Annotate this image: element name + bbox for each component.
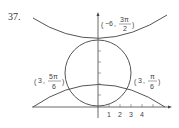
svg-text:): ) bbox=[158, 78, 160, 86]
svg-text:6: 6 bbox=[52, 83, 56, 90]
svg-text:(: ( bbox=[134, 78, 137, 86]
svg-text:(: ( bbox=[34, 78, 37, 86]
svg-text:5π: 5π bbox=[49, 73, 58, 80]
svg-text:3: 3 bbox=[38, 77, 42, 84]
x-tick-3: 3 bbox=[129, 111, 133, 118]
polar-graph: 37. 1 2 3 4 ( −6 , 3π 2 ) ( 3 , bbox=[0, 0, 179, 128]
upper-curve bbox=[33, 15, 167, 38]
svg-text:3: 3 bbox=[138, 77, 142, 84]
svg-text:,: , bbox=[143, 77, 145, 84]
problem-number: 37. bbox=[8, 11, 21, 22]
x-tick-4: 4 bbox=[140, 111, 144, 118]
x-tick-1: 1 bbox=[107, 111, 111, 118]
svg-text:): ) bbox=[132, 21, 134, 29]
svg-text:(: ( bbox=[101, 21, 104, 29]
x-tick-2: 2 bbox=[118, 111, 122, 118]
vertical-ticks bbox=[98, 51, 101, 95]
label-left-point: ( 3 , 5π 6 ) bbox=[34, 73, 64, 90]
svg-text:6: 6 bbox=[150, 83, 154, 90]
svg-text:−6: −6 bbox=[105, 20, 113, 27]
vertical-axis-arrow bbox=[97, 12, 100, 16]
svg-text:): ) bbox=[62, 78, 64, 86]
horizontal-axis-arrow bbox=[168, 106, 172, 109]
svg-text:3π: 3π bbox=[120, 16, 129, 23]
svg-text:,: , bbox=[114, 20, 116, 27]
svg-text:π: π bbox=[150, 73, 155, 80]
label-right-point: ( 3 , π 6 ) bbox=[134, 73, 160, 90]
svg-text:,: , bbox=[43, 77, 45, 84]
horizontal-ticks bbox=[109, 104, 153, 107]
label-top-point: ( −6 , 3π 2 ) bbox=[101, 16, 134, 32]
svg-text:2: 2 bbox=[123, 25, 127, 32]
